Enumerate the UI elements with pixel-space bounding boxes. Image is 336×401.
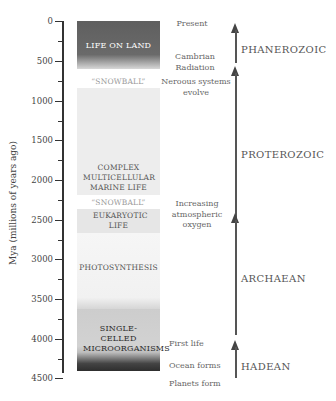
tick-minor (58, 81, 63, 82)
tick-minor (58, 240, 63, 241)
arrow-shaft-phanerozoic (235, 30, 237, 63)
tick-label: 1500 (31, 135, 53, 145)
tick-minor (58, 359, 63, 360)
tick-3500 (55, 299, 63, 300)
event-ocean-forms: Ocean forms (169, 361, 229, 372)
label-complex-life: COMPLEX MULTICELLULAR MARINE LIFE (77, 163, 160, 193)
event-cambrian-radiation: Cambrian Radiation (162, 52, 228, 73)
tick-minor (58, 121, 63, 122)
tick-label: 3500 (31, 294, 53, 304)
event-first-life: First life (169, 339, 229, 350)
tick-1000 (55, 101, 63, 102)
arrow-shaft-archaean (235, 220, 237, 335)
tick-label: 2500 (31, 215, 53, 225)
eon-phanerozoic: PHANEROZOIC (241, 44, 327, 55)
tick-label: 4000 (31, 334, 53, 344)
tick-minor (58, 200, 63, 201)
event-atmospheric-oxygen: Increasing atmospheric oxygen (170, 199, 224, 231)
arrow-shaft-hadean (235, 347, 237, 378)
tick-4500 (55, 378, 63, 379)
tick-500 (55, 61, 63, 62)
label-single-celled: SINGLE-CELLED MICROORGANISMS (77, 324, 160, 354)
tick-label: 500 (37, 56, 53, 66)
tick-minor (58, 279, 63, 280)
event-present: Present (167, 19, 217, 30)
label-eukaryotic: EUKARYOTIC LIFE (77, 211, 160, 231)
tick-label: 2000 (31, 175, 53, 185)
tick-minor (58, 41, 63, 42)
label-snowball-1: “SNOWBALL” (77, 77, 160, 87)
eon-hadean: HADEAN (241, 361, 291, 372)
eon-proterozoic: PROTEROZOIC (241, 149, 324, 160)
tick-1500 (55, 140, 63, 141)
tick-label: 1000 (31, 96, 53, 106)
tick-minor (58, 319, 63, 320)
event-cambrian-text: Cambrian Radiation (175, 52, 215, 72)
tick-label: 3000 (31, 254, 53, 264)
tick-2000 (55, 180, 63, 181)
label-snowball-2: “SNOWBALL” (77, 198, 160, 208)
event-planets-form: Planets form (169, 379, 229, 390)
y-axis-label: Mya (millions of years ago) (8, 141, 18, 265)
label-life-on-land: LIFE ON LAND (77, 41, 160, 51)
tick-4000 (55, 339, 63, 340)
tick-minor (58, 160, 63, 161)
eon-archaean: ARCHAEAN (241, 273, 306, 284)
tick-0 (55, 21, 63, 22)
arrow-shaft-proterozoic (235, 73, 237, 226)
life-column: LIFE ON LAND “SNOWBALL” COMPLEX MULTICEL… (77, 21, 160, 371)
tick-label: 0 (48, 16, 53, 26)
eon-arrows (150, 0, 160, 401)
event-nervous-systems: Neroous systems evolve (160, 77, 232, 98)
tick-2500 (55, 220, 63, 221)
tick-3000 (55, 259, 63, 260)
tick-label: 4500 (31, 373, 53, 383)
label-photosynthesis: PHOTOSYNTHESIS (77, 263, 160, 273)
